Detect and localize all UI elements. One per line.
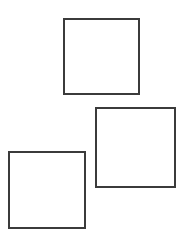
top-square-outer-border [64,19,139,94]
bottom-right-square [96,108,175,187]
figures-group [9,19,175,228]
bottom-left-square-outer-border [9,152,85,228]
squared-squares-figure [0,0,184,244]
bottom-left-square [9,152,85,228]
top-square [64,19,139,94]
bottom-right-square-outer-border [96,108,175,187]
diagram-canvas [0,0,184,244]
